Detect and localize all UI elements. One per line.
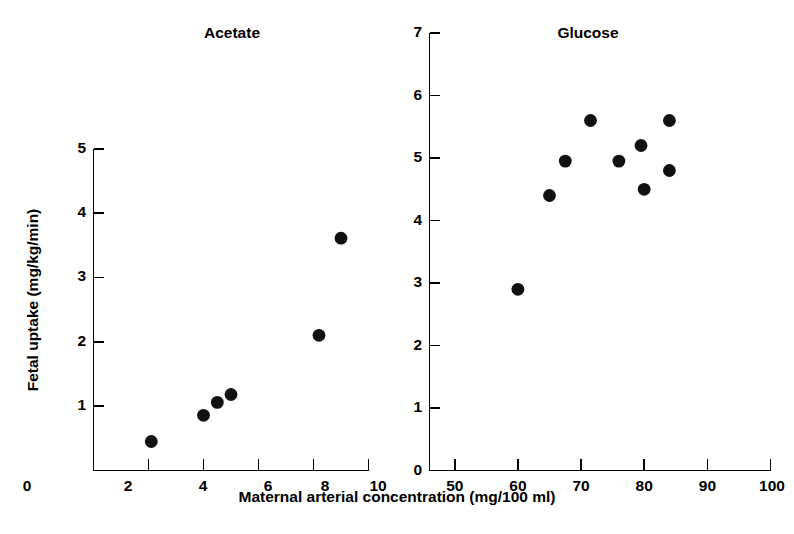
acetate-x-ticks: [94, 459, 369, 471]
glucose-ytick-5: 5: [413, 148, 422, 165]
glucose-x-ticks: [455, 459, 771, 471]
acetate-ytick-4: 4: [77, 203, 86, 220]
glucose-xtick-90: 90: [699, 477, 716, 494]
glucose-ytick-3: 3: [413, 273, 422, 290]
acetate-ytick-1: 1: [77, 396, 86, 413]
data-point: [225, 388, 238, 401]
panel-acetate: Acetate 1 2 3 4 5: [23, 24, 387, 494]
glucose-ytick-6: 6: [413, 86, 422, 103]
x-axis-label: Maternal arterial concentration (mg/100 …: [239, 488, 556, 505]
data-point: [613, 155, 626, 168]
glucose-ytick-2: 2: [413, 336, 422, 353]
y-axis-label: Fetal uptake (mg/kg/min): [24, 209, 41, 392]
glucose-ytick-0: 0: [413, 461, 422, 478]
data-point: [197, 409, 210, 422]
glucose-ytick-1: 1: [413, 398, 422, 415]
data-point: [663, 164, 676, 177]
acetate-ytick-3: 3: [77, 267, 86, 284]
glucose-y-ticks: [430, 33, 441, 471]
glucose-xtick-70: 70: [572, 477, 589, 494]
glucose-data-points: [512, 114, 676, 296]
glucose-xtick-80: 80: [636, 477, 653, 494]
acetate-xtick-2: 2: [124, 477, 133, 494]
data-point: [211, 396, 224, 409]
panel-title-glucose: Glucose: [557, 24, 619, 41]
acetate-y-ticks: [94, 149, 105, 471]
acetate-xtick-0: 0: [23, 477, 32, 494]
data-point: [145, 435, 158, 448]
glucose-ytick-4: 4: [413, 211, 422, 228]
glucose-xtick-100: 100: [759, 477, 785, 494]
scatter-figure: Acetate 1 2 3 4 5: [0, 0, 794, 534]
data-point: [663, 114, 676, 127]
panel-title-acetate: Acetate: [204, 24, 260, 41]
acetate-ytick-5: 5: [77, 139, 86, 156]
data-point: [638, 183, 651, 196]
glucose-ytick-7: 7: [413, 23, 422, 40]
data-point: [335, 232, 348, 245]
acetate-ytick-2: 2: [77, 332, 86, 349]
panel-glucose: Glucose 0 1 2 3 4 5 6 7: [413, 23, 785, 494]
data-point: [559, 155, 572, 168]
data-point: [635, 139, 648, 152]
data-point: [512, 283, 525, 296]
acetate-xtick-4: 4: [199, 477, 208, 494]
data-point: [584, 114, 597, 127]
data-point: [313, 329, 326, 342]
data-point: [543, 189, 556, 202]
acetate-data-points: [145, 232, 347, 448]
figure-canvas: Acetate 1 2 3 4 5: [0, 0, 794, 534]
